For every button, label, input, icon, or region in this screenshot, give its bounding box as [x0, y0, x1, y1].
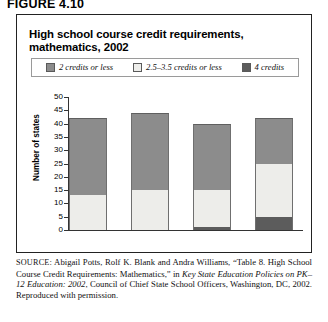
y-axis-label: Number of states	[32, 105, 41, 191]
axes: 05101520253035404550	[41, 97, 303, 239]
legend-label: 2.5–3.5 credits or less	[146, 63, 222, 72]
figure-label: FIGURE 4.10	[7, 0, 84, 11]
y-tick-label: 0	[59, 226, 63, 234]
legend-label: 2 credits or less	[59, 63, 113, 72]
y-tick-mark	[64, 230, 68, 231]
bar-segment	[131, 190, 169, 230]
legend-swatch-icon	[133, 63, 142, 72]
plot-area: Number of states 05101520253035404550	[17, 83, 313, 251]
y-tick-label: 25	[54, 160, 63, 168]
y-tick-label: 45	[54, 106, 63, 114]
y-tick-mark	[64, 124, 68, 125]
bar-segment	[193, 124, 231, 191]
bar-segment	[255, 164, 293, 217]
y-tick-mark	[64, 110, 68, 111]
y-tick-mark	[64, 190, 68, 191]
legend-label: 4 credits	[255, 63, 285, 72]
legend-swatch-icon	[46, 63, 55, 72]
y-tick-label: 30	[54, 146, 63, 154]
bar-segment	[193, 227, 231, 230]
bar-segment	[255, 118, 293, 163]
bar-group	[69, 97, 303, 230]
figure-panel: FIGURE 4.10 High school course credit re…	[0, 0, 328, 322]
chart-title: High school course credit requirements, …	[29, 28, 301, 54]
x-axis-line	[68, 230, 303, 231]
y-tick-mark	[64, 150, 68, 151]
bar-segment	[131, 113, 169, 190]
y-tick-label: 40	[54, 120, 63, 128]
y-tick-label: 15	[54, 186, 63, 194]
y-tick-label: 50	[54, 93, 63, 101]
source-note: SOURCE: Abigail Potts, Rolf K. Blank and…	[16, 257, 312, 300]
y-tick-mark	[64, 137, 68, 138]
y-tick-label: 5	[59, 213, 63, 221]
y-tick-mark	[64, 217, 68, 218]
bar-segment	[255, 217, 293, 230]
y-tick-label: 10	[54, 199, 63, 207]
bar-segment	[69, 195, 107, 230]
legend-swatch-icon	[242, 63, 251, 72]
y-tick-mark	[64, 164, 68, 165]
y-tick-label: 20	[54, 173, 63, 181]
y-axis-ticks: 05101520253035404550	[41, 97, 63, 230]
y-tick-label: 35	[54, 133, 63, 141]
y-tick-mark	[64, 177, 68, 178]
y-tick-mark	[64, 97, 68, 98]
legend-item-25-35-credits-or-less: 2.5–3.5 credits or less	[133, 63, 222, 72]
legend-item-2-credits-or-less: 2 credits or less	[46, 63, 113, 72]
bar-segment	[193, 190, 231, 227]
chart-frame: High school course credit requirements, …	[16, 14, 312, 253]
legend-item-4-credits: 4 credits	[242, 63, 285, 72]
y-tick-mark	[64, 203, 68, 204]
source-prefix: SOURCE	[16, 258, 50, 267]
bar-segment	[69, 118, 107, 195]
chart-legend: 2 credits or less 2.5–3.5 credits or les…	[31, 58, 299, 77]
